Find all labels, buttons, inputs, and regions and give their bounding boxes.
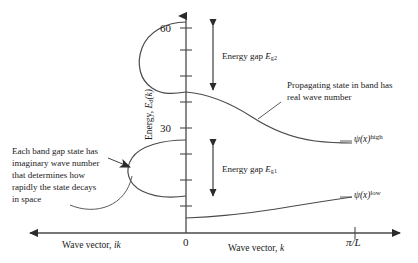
y-axis-title-argument: (k) (144, 89, 154, 100)
x-axis-left-symbol: ik (114, 240, 121, 250)
psi-high-label: ψ(x)high (354, 133, 383, 145)
x-tick-label-pi-over-l: π/L (346, 236, 361, 249)
y-tick-label-60: 60 (160, 22, 171, 35)
gap-state-loop-lower (128, 140, 186, 197)
band-curve-psi-low (186, 197, 352, 218)
x-axis-left-prefix: Wave vector, (62, 240, 114, 250)
origin-label: 0 (183, 236, 189, 249)
energy-gap-2-text: Energy gap (222, 51, 265, 61)
y-axis-title-symbol: E (144, 103, 154, 109)
energy-gap-2-label: Energy gap Eg2 (222, 51, 277, 63)
x-axis-right-symbol: k (280, 243, 284, 253)
energy-gap-1-subscript: g1 (271, 168, 277, 174)
x-axis-right-title: Wave vector, k (228, 243, 284, 254)
y-axis-title-subscript: d (147, 100, 154, 103)
band-gap-state-note: Each band gap state has imaginary wave n… (12, 146, 99, 205)
psi-low-superscript: low (370, 189, 380, 196)
pi-over-l-text: π/L (346, 236, 361, 248)
plot-canvas (0, 0, 418, 263)
psi-high-superscript: high (370, 133, 382, 140)
x-axis-left-title: Wave vector, ik (62, 240, 121, 251)
psi-low-argument: (x) (360, 190, 371, 200)
band-structure-figure: 60 30 0 π/L Energy, Ed(k) Wave vector, i… (0, 0, 418, 263)
psi-low-label: ψ(x)low (354, 189, 381, 201)
y-tick-label-30: 30 (160, 122, 171, 135)
energy-gap-1-text: Energy gap (222, 164, 265, 174)
propagating-state-note: Propagating state in band has real wave … (287, 80, 392, 104)
energy-gap-1-label: Energy gap Eg1 (222, 164, 277, 176)
propagating-note-leader (258, 102, 281, 119)
bandgap-note-arrow (108, 158, 130, 167)
y-axis-title: Energy, Ed(k) (144, 89, 155, 140)
psi-high-argument: (x) (360, 134, 371, 144)
x-axis-right-prefix: Wave vector, (228, 243, 280, 253)
y-axis-title-prefix: Energy, (144, 109, 154, 140)
energy-gap-2-subscript: g2 (271, 55, 277, 61)
